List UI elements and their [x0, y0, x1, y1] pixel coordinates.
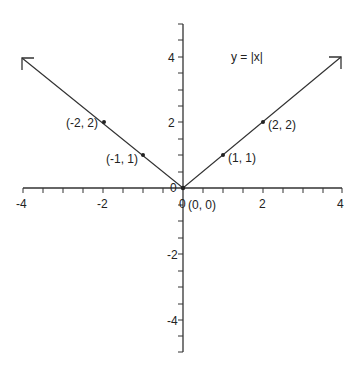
x-tick-label: -2: [97, 197, 108, 211]
x-tick-label: 0: [179, 197, 186, 211]
point-neg2: [102, 120, 106, 124]
x-tick-label: 4: [337, 197, 344, 211]
y-tick-label: 0: [170, 181, 177, 195]
y-tick-label: 4: [168, 51, 175, 65]
point-label-1: (1, 1): [228, 151, 256, 165]
equation-label: y = |x|: [231, 50, 263, 64]
point-label-neg2: (-2, 2): [66, 116, 98, 130]
point-1: [221, 153, 225, 157]
point-neg1: [141, 153, 145, 157]
x-tick-label: -4: [16, 197, 27, 211]
point-label-neg1: (-1, 1): [106, 152, 138, 166]
y-tick-label: -2: [167, 248, 178, 262]
point-2: [261, 120, 265, 124]
point-origin: [181, 186, 185, 190]
plot-area: -4 -2 0 2 4 4 2 0 -2 -4 y = |x| (-2, 2) …: [0, 0, 361, 379]
point-label-origin: (0, 0): [188, 198, 216, 212]
x-tick-label: 2: [259, 197, 266, 211]
y-tick-label: -4: [167, 314, 178, 328]
point-label-2: (2, 2): [268, 118, 296, 132]
y-tick-label: 2: [168, 116, 175, 130]
